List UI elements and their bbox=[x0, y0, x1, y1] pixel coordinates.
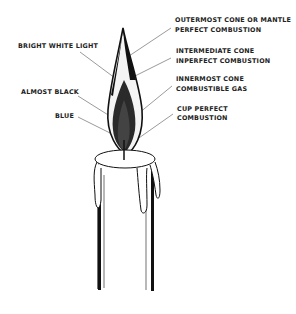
label-innermost-cone-desc: COMBUSTIBLE GAS bbox=[176, 84, 247, 94]
label-intermediate-cone: INTERMEDIATE CONE bbox=[176, 46, 254, 56]
label-bright-white-light: BRIGHT WHITE LIGHT bbox=[18, 41, 98, 51]
label-blue: BLUE bbox=[55, 111, 74, 121]
label-outermost-cone-desc: PERFECT COMBUSTION bbox=[175, 25, 261, 35]
label-outermost-cone: OUTERMOST CONE OR MANTLE bbox=[175, 15, 291, 25]
label-intermediate-cone-desc: INPERFECT COMBUSTION bbox=[176, 56, 270, 66]
candle bbox=[94, 150, 160, 291]
label-almost-black: ALMOST BLACK bbox=[21, 87, 79, 97]
label-cup-desc: COMBUSTION bbox=[177, 113, 228, 123]
flame bbox=[108, 28, 142, 160]
label-innermost-cone: INNERMOST CONE bbox=[176, 74, 244, 84]
